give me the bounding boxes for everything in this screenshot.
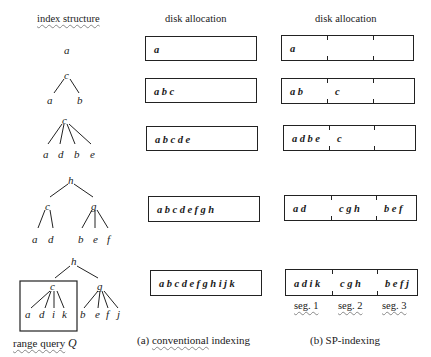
tree5-node-h: h: [71, 255, 77, 267]
sp-block-2-seg-3: [373, 79, 414, 103]
tree4-node-a: a: [32, 233, 38, 245]
tree2-node-c: c: [64, 69, 69, 81]
tree3-node-c: c: [62, 114, 67, 126]
segment-label-2: seg. 2: [338, 300, 363, 311]
tree4-node-e: e: [93, 233, 98, 245]
tree2-node-a: a: [47, 94, 53, 106]
tree4-node-g: g: [91, 200, 97, 212]
sp-block-1-seg-3: [373, 36, 413, 60]
index-trees: a c a b c a d b e h c g a d b e f h c g …: [0, 0, 140, 357]
sp-block-5: adik cgh befj: [285, 269, 418, 296]
sp-block-3: adbe c: [283, 125, 416, 151]
sp-block-2-seg-1: ab: [282, 79, 327, 103]
tree4-node-f: f: [107, 233, 112, 245]
sp-block-2: ab c: [281, 78, 415, 104]
tree5-node-e: e: [95, 308, 100, 320]
tree4-node-d: d: [48, 233, 54, 245]
tree2-node-b: b: [77, 94, 83, 106]
tree5-node-f: f: [106, 308, 111, 320]
sp-block-3-seg-1: adbe: [284, 126, 329, 150]
segment-label-3: seg. 3: [382, 300, 407, 311]
sp-block-3-seg-3: [374, 126, 415, 150]
sp-block-1-seg-1: a: [282, 36, 327, 60]
conventional-block-3: abcde: [146, 126, 258, 151]
tree5-node-j: j: [115, 308, 120, 320]
tree4-node-h: h: [68, 174, 74, 186]
conventional-block-2: abc: [145, 78, 257, 103]
sp-block-5-seg-3: befj: [377, 270, 417, 295]
caption-sp-indexing: (b) SP-indexing: [310, 334, 380, 346]
range-query-label: range query Q: [13, 336, 77, 351]
disk-allocation-header-b: disk allocation: [315, 13, 377, 24]
tree4-node-c: c: [45, 200, 50, 212]
sp-block-1: a: [281, 35, 414, 61]
tree5-node-k: k: [62, 308, 68, 320]
tree5-node-i: i: [52, 308, 55, 320]
sp-block-2-seg-2: c: [327, 79, 373, 103]
tree5-node-d: d: [39, 308, 45, 320]
tree3-node-e: e: [90, 148, 95, 160]
tree4-node-b: b: [78, 233, 84, 245]
caption-conventional-indexing: (a) conventional indexing: [137, 334, 250, 346]
sp-block-5-seg-2: cgh: [332, 270, 377, 295]
sp-block-4-seg-1: ad: [285, 196, 331, 220]
tree5-node-g: g: [97, 280, 103, 292]
conventional-block-4: abcdefgh: [148, 196, 260, 222]
tree1-node-a: a: [64, 44, 70, 56]
segment-label-1: seg. 1: [294, 300, 319, 311]
conventional-block-1: a: [145, 36, 257, 61]
sp-block-4-seg-3: bef: [376, 196, 416, 220]
sp-block-4-seg-2: cgh: [331, 196, 376, 220]
sp-block-4: ad cgh bef: [284, 195, 417, 221]
sp-block-5-seg-1: adik: [286, 270, 332, 295]
tree3-node-d: d: [58, 148, 64, 160]
tree5-node-c: c: [50, 280, 55, 292]
tree3-node-a: a: [43, 148, 49, 160]
conventional-block-5: abcdefghijk: [150, 270, 262, 296]
disk-allocation-header-a: disk allocation: [165, 13, 227, 24]
sp-block-1-seg-2: [327, 36, 373, 60]
tree3-node-b: b: [74, 148, 80, 160]
tree5-node-a: a: [25, 308, 31, 320]
sp-block-3-seg-2: c: [329, 126, 374, 150]
tree5-node-b: b: [80, 308, 86, 320]
